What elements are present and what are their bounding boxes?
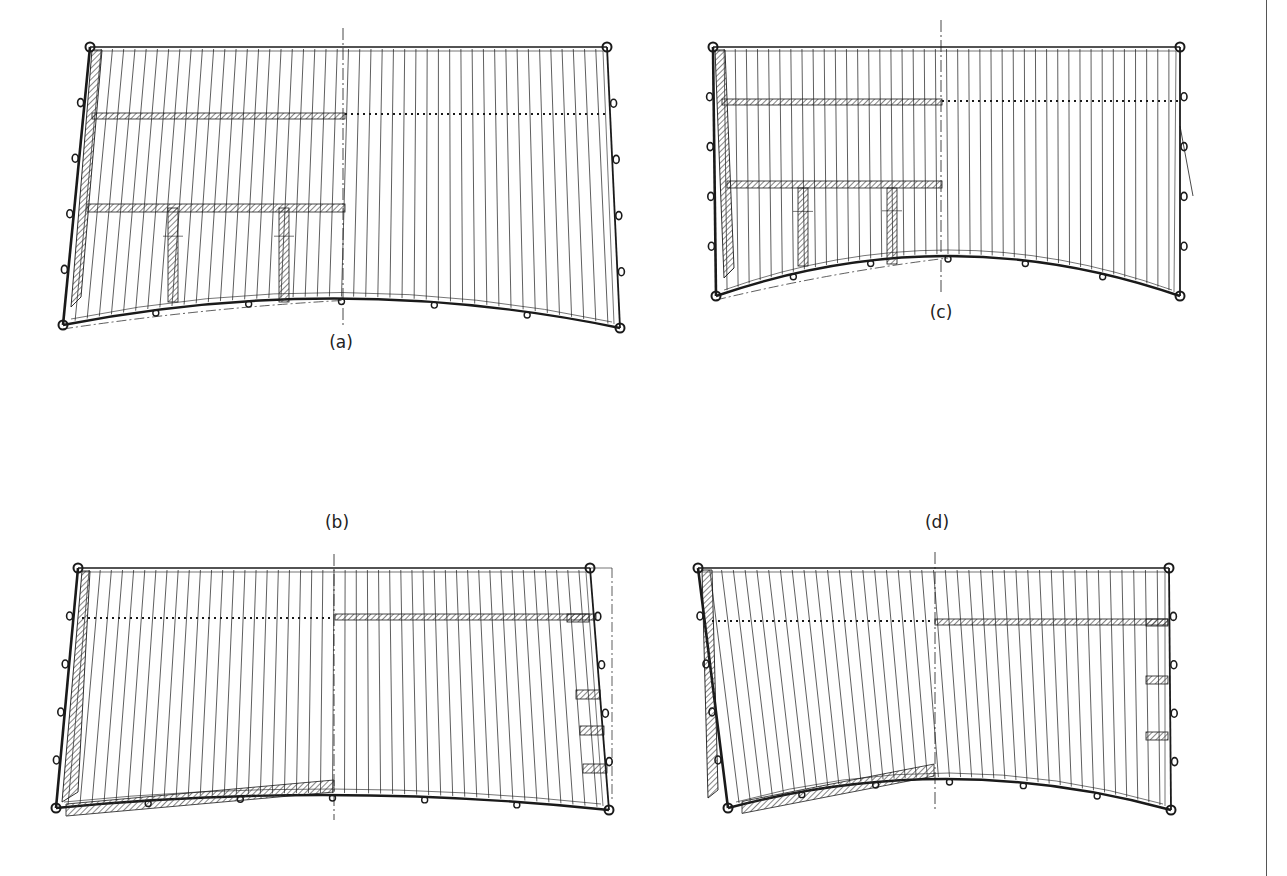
right-edge: [1169, 568, 1171, 810]
panel-label-d: (d): [925, 512, 949, 532]
hatched-bar: [935, 619, 1168, 625]
hatched-patch: [1146, 732, 1168, 740]
page-edge-line: [1266, 0, 1267, 876]
hatched-patch: [1146, 676, 1168, 684]
foot-band: [742, 764, 934, 813]
luff-strip: [702, 570, 718, 798]
hatched-patch: [1146, 619, 1168, 626]
panel-drawing-d: [0, 0, 1287, 876]
